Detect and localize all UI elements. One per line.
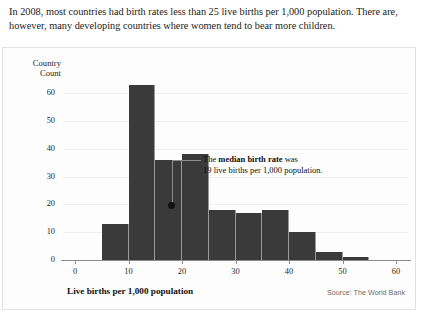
x-tick-30	[236, 260, 237, 264]
y-tick-label-30: 30	[17, 172, 55, 181]
bar-30-35	[236, 213, 263, 260]
y-tick-label-10: 10	[17, 227, 55, 236]
x-axis-title: Live births per 1,000 population	[67, 286, 193, 296]
bar-45-50	[316, 252, 343, 260]
intro-paragraph: In 2008, most countries had birth rates …	[9, 5, 409, 32]
annotation-prefix: The	[203, 154, 218, 164]
x-tick-10	[129, 260, 130, 264]
bar-25-30	[209, 210, 236, 260]
annotation-line2: 19 live births per 1,000 population.	[203, 165, 323, 175]
annotation-suffix: was	[283, 154, 298, 164]
x-tick-0	[75, 260, 76, 264]
median-annotation: The median birth rate was 19 live births…	[203, 154, 363, 176]
gridline-20	[63, 204, 408, 205]
y-tick-label-40: 40	[17, 144, 55, 153]
y-tick-label-60: 60	[17, 88, 55, 97]
source-note: Source: The World Bank	[327, 288, 405, 297]
x-tick-50	[343, 260, 344, 264]
bar-40-45	[289, 232, 316, 260]
x-tick-label-30: 30	[221, 267, 251, 276]
x-tick-label-0: 0	[60, 267, 90, 276]
gridline-60	[63, 93, 408, 94]
x-tick-60	[396, 260, 397, 264]
x-tick-label-10: 10	[114, 267, 144, 276]
x-tick-label-20: 20	[167, 267, 197, 276]
bar-5-10	[102, 224, 129, 260]
gridline-40	[63, 149, 408, 150]
annotation-leader-vertical	[172, 160, 173, 206]
x-tick-40	[289, 260, 290, 264]
y-tick-label-0: 0	[17, 255, 55, 264]
x-tick-label-50: 50	[328, 267, 358, 276]
annotation-emphasis: median birth rate	[218, 154, 282, 164]
bar-35-40	[262, 210, 289, 260]
bar-10-15	[129, 85, 156, 260]
x-tick-label-40: 40	[274, 267, 304, 276]
bar-15-20	[155, 160, 182, 260]
x-tick-label-60: 60	[381, 267, 411, 276]
y-tick-label-20: 20	[17, 199, 55, 208]
plot-area: 60 50 40 30 20 10 0 0 10 20 30 40 50 60	[3, 48, 415, 309]
gridline-50	[63, 121, 408, 122]
x-tick-20	[182, 260, 183, 264]
median-marker-dot	[168, 202, 175, 209]
y-tick-label-50: 50	[17, 116, 55, 125]
gridline-30	[63, 177, 408, 178]
chart-figure: Country Count 60 50 40 30 20 10 0	[2, 47, 416, 310]
annotation-leader-horizontal	[172, 160, 201, 161]
